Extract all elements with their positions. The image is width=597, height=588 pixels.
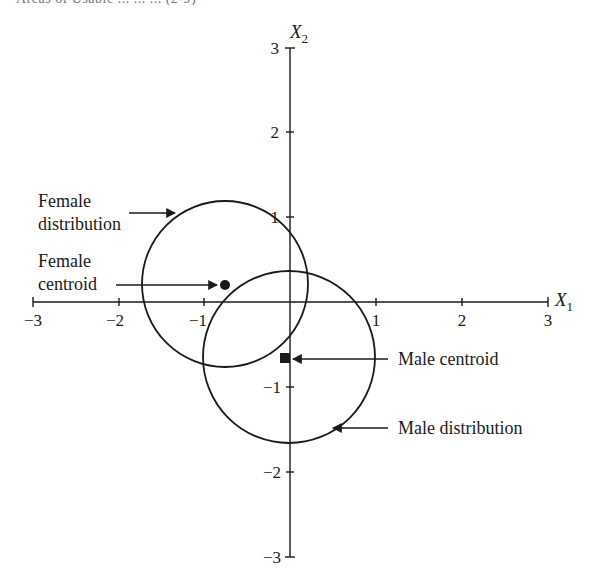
x-tick-labels: −3 −2 −1 1 2 3: [24, 311, 552, 330]
y-axis-title: X2: [289, 21, 308, 46]
y-tick-label: −2: [263, 463, 281, 482]
y-tick-label: 2: [271, 123, 280, 142]
x-axis-title: X1: [554, 289, 573, 314]
x-tick-label: −2: [106, 311, 124, 330]
discriminant-plot: −3 −2 −1 1 2 3 X1 3 2 1 −1 −2 −3 X2 Fema…: [0, 0, 597, 588]
x-tick-label: −1: [189, 311, 207, 330]
female-distribution-label-line2: distribution: [38, 214, 121, 234]
male-centroid-marker: [280, 353, 290, 363]
y-tick-labels: 3 2 1 −1 −2 −3: [263, 39, 281, 567]
male-centroid-label: Male centroid: [398, 349, 498, 369]
y-tick-label: −3: [263, 548, 281, 567]
female-centroid-label-line2: centroid: [38, 274, 97, 294]
x-tick-label: −3: [24, 311, 42, 330]
y-tick-label: −1: [263, 378, 281, 397]
y-tick-label: 3: [271, 39, 280, 58]
female-centroid-marker: [220, 280, 230, 290]
x-tick-label: 2: [458, 311, 467, 330]
female-centroid-label-line1: Female: [38, 251, 91, 271]
x-tick-label: 1: [372, 311, 381, 330]
female-distribution-label-line1: Female: [38, 191, 91, 211]
male-distribution-label: Male distribution: [398, 418, 523, 438]
x-tick-label: 3: [544, 311, 553, 330]
